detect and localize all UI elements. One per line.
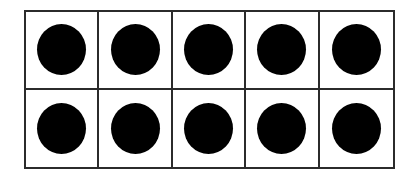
frame-cell <box>173 12 246 90</box>
frame-cell <box>26 12 99 90</box>
counter-dot <box>332 103 381 154</box>
frame-cell <box>246 12 319 90</box>
ten-frame <box>24 10 395 169</box>
frame-cell <box>173 90 246 168</box>
frame-cell <box>99 90 172 168</box>
frame-cell <box>26 90 99 168</box>
counter-dot <box>257 103 306 154</box>
frame-cell <box>99 12 172 90</box>
counter-dot <box>37 24 86 75</box>
counter-dot <box>257 24 306 75</box>
counter-dot <box>332 24 381 75</box>
counter-dot <box>37 103 86 154</box>
frame-cell <box>246 90 319 168</box>
counter-dot <box>111 24 160 75</box>
frame-cell <box>320 90 393 168</box>
frame-cell <box>320 12 393 90</box>
counter-dot <box>184 103 233 154</box>
counter-dot <box>184 24 233 75</box>
counter-dot <box>111 103 160 154</box>
